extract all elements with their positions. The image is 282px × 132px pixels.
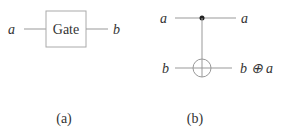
target-input-label: b [162,61,169,76]
target-output-label: b ⊕ a [240,61,273,76]
diagram: a Gate b (a) a a b b ⊕ a (b) [0,0,282,132]
control-output-label: a [241,11,248,26]
panel-b: a a b b ⊕ a (b) [160,11,273,127]
output-label-b: b [113,22,120,37]
panel-a: a Gate b (a) [8,11,120,127]
control-input-label: a [160,11,167,26]
input-label-a: a [8,22,15,37]
caption-b: (b) [187,111,204,127]
caption-a: (a) [56,111,72,127]
gate-label: Gate [53,22,79,37]
